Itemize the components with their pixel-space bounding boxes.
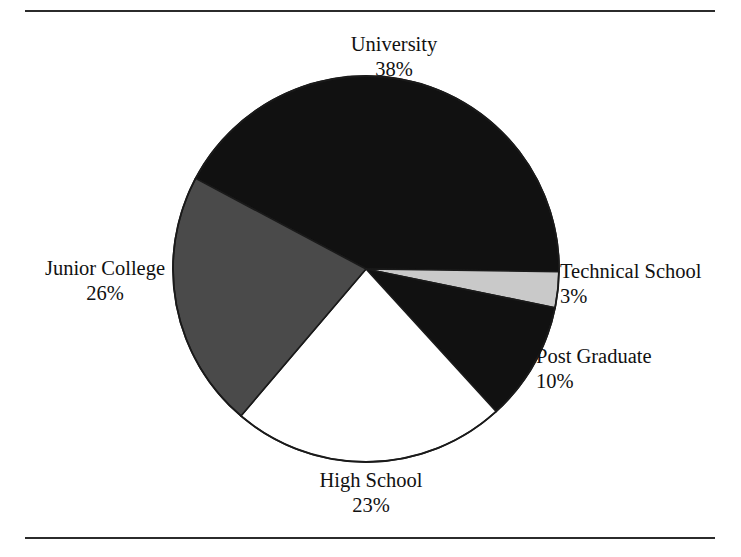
pie-slices-group (173, 76, 559, 462)
slice-label-high-school-name: High School (286, 468, 456, 493)
slice-label-post-graduate-value: 10% (536, 369, 711, 394)
pie-chart-figure: University 38% Technical School 3% Post … (0, 0, 741, 557)
slice-label-junior-college-name: Junior College (10, 256, 200, 281)
slice-label-high-school-value: 23% (286, 493, 456, 518)
slice-label-technical-school-value: 3% (560, 284, 740, 309)
pie-plot-area: University 38% Technical School 3% Post … (0, 0, 741, 557)
slice-label-junior-college: Junior College 26% (10, 256, 200, 306)
slice-label-university-value: 38% (314, 57, 474, 82)
slice-label-post-graduate: Post Graduate 10% (536, 344, 711, 394)
slice-label-junior-college-value: 26% (10, 281, 200, 306)
bottom-rule (25, 537, 715, 539)
slice-label-high-school: High School 23% (286, 468, 456, 518)
slice-label-university-name: University (314, 32, 474, 57)
slice-label-university: University 38% (314, 32, 474, 82)
slice-label-post-graduate-name: Post Graduate (536, 344, 711, 369)
slice-label-technical-school: Technical School 3% (560, 259, 740, 309)
slice-label-technical-school-name: Technical School (560, 259, 740, 284)
